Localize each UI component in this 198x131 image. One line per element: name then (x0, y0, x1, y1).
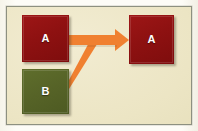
node-a-left[interactable]: A (22, 15, 69, 62)
arrow-shaft (63, 35, 117, 45)
node-a-left-label: A (41, 33, 49, 44)
node-a-right[interactable]: A (129, 15, 174, 64)
node-a-right-label: A (147, 34, 155, 45)
diagram-figure: A B A (0, 0, 198, 131)
node-b-label: B (41, 86, 49, 97)
node-b[interactable]: B (22, 69, 69, 114)
figure-frame: A B A (6, 6, 192, 125)
diagram-canvas: A B A (7, 7, 191, 124)
arrow-shadow (63, 45, 117, 47)
arrow-head-icon (115, 29, 129, 51)
